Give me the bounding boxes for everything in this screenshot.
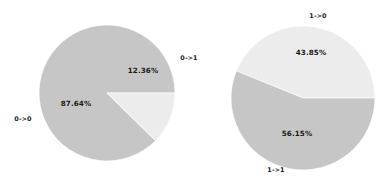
pie-category-label-0-to-0: 0->0 <box>14 116 31 122</box>
pie-value-label-1-to-0: 43.85% <box>296 49 327 56</box>
pie-category-label-1-to-0: 1->0 <box>309 13 326 19</box>
pie-chart-right: 43.85% 56.15% 1->0 1->1 <box>195 0 389 188</box>
pie-value-label-1-to-1: 56.15% <box>282 130 313 137</box>
pie-value-label-0-to-1: 12.36% <box>128 67 159 74</box>
pie-left-svg <box>0 0 195 188</box>
pie-category-label-1-to-1: 1->1 <box>267 167 284 173</box>
pie-right-svg <box>195 0 389 188</box>
pie-value-label-0-to-0: 87.64% <box>61 100 92 107</box>
pie-chart-figure: 87.64% 12.36% 0->0 0->1 43.85% 56.15% 1-… <box>0 0 389 188</box>
pie-chart-left: 87.64% 12.36% 0->0 0->1 <box>0 0 195 188</box>
